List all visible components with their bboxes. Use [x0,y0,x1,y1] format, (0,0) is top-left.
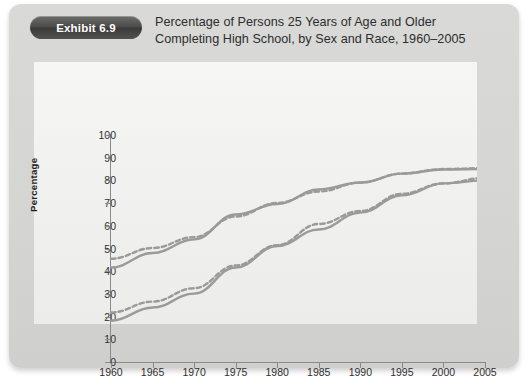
plot-card: Percentage 0102030405060708090100 196019… [34,62,477,324]
figure-title-line-1: Percentage of Persons 25 Years of Age an… [155,14,505,31]
y-tick-mark-10 [105,339,110,340]
x-tick-mark-2005 [485,363,486,368]
x-tick-mark-1965 [153,363,154,368]
x-axis-line [110,362,486,363]
y-tick-mark-0 [105,362,110,363]
y-tick-label-10: 10 [76,333,116,345]
exhibit-badge: Exhibit 6.9 [30,16,142,39]
figure-title-line-2: Completing High School, by Sex and Race,… [155,31,505,48]
x-tick-mark-1960 [111,363,112,368]
x-tick-mark-1975 [236,363,237,368]
x-tick-mark-1995 [402,363,403,368]
x-tick-mark-1990 [360,363,361,368]
series-line-white-females [111,168,477,259]
exhibit-badge-label: Exhibit 6.9 [56,22,116,34]
x-tick-mark-1970 [194,363,195,368]
exhibit-card: Exhibit 6.9 Percentage of Persons 25 Yea… [9,4,519,368]
figure-title: Percentage of Persons 25 Years of Age an… [155,14,505,49]
x-tick-mark-1980 [277,363,278,368]
series-line-white-males [111,169,477,268]
x-tick-mark-1985 [319,363,320,368]
x-tick-mark-2000 [443,363,444,368]
chart-plot [34,62,477,324]
